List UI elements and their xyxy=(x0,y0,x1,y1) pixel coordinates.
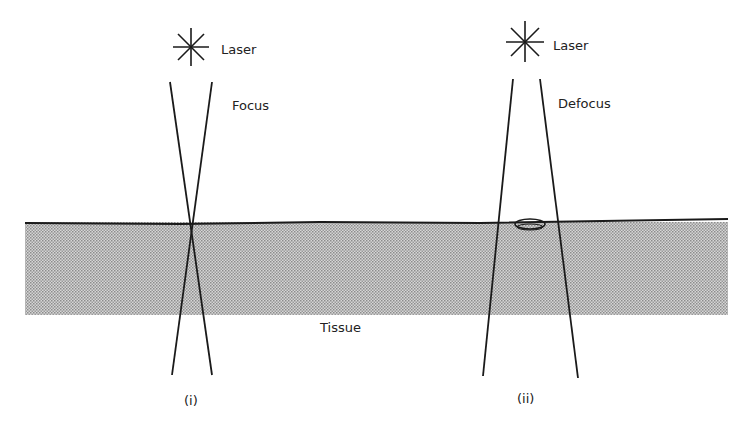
defocus-label: Defocus xyxy=(558,96,611,111)
focus-label: Focus xyxy=(232,98,269,113)
laser-label-ii: Laser xyxy=(553,38,589,53)
caption-i: (i) xyxy=(184,393,198,408)
laser-focus-diagram: Laser Focus Laser Defocus Tissue (i) (ii… xyxy=(0,0,749,434)
laser-star-icon xyxy=(506,21,544,62)
laser-star-icon xyxy=(173,28,209,66)
laser-label-i: Laser xyxy=(221,42,257,57)
tissue-region xyxy=(25,222,728,315)
caption-ii: (ii) xyxy=(517,391,534,406)
tissue-label: Tissue xyxy=(319,320,361,335)
